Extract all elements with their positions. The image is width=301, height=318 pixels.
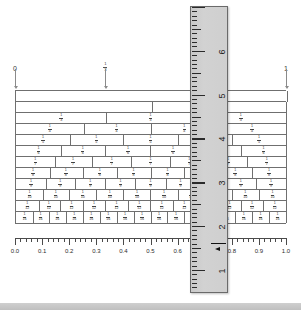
decimal-ruler: 0.00.10.20.30.40.50.60.70.80.91.0 [15, 238, 286, 264]
decimal-minor-tick [243, 238, 244, 242]
ruler-tick [192, 121, 197, 122]
fraction-cell-label: 18 [64, 169, 67, 177]
fraction-cell-label: 14 [115, 125, 118, 133]
ruler-tick [192, 174, 197, 175]
ruler-number: 2 [218, 225, 227, 230]
ruler-tick [192, 38, 197, 39]
fraction-cell-label: 16 [81, 147, 84, 155]
ruler-tick [192, 55, 197, 56]
fraction-cell-label: 15 [41, 136, 44, 144]
ruler-number: 5 [218, 93, 227, 98]
fraction-cell-label: 110 [162, 191, 166, 199]
decimal-minor-tick [53, 238, 54, 242]
decimal-minor-tick [48, 238, 49, 242]
fraction-cell-label: 18 [166, 169, 169, 177]
fraction-cell-label: 19 [239, 180, 242, 188]
decimal-minor-tick [275, 238, 276, 242]
decimal-minor-tick [113, 238, 114, 242]
decimal-minor-tick [107, 238, 108, 242]
ruler-tick [192, 7, 205, 8]
ruler-tick [192, 209, 197, 210]
fraction-cell[interactable]: 116 [167, 212, 185, 223]
fraction-cell[interactable]: 116 [252, 212, 270, 223]
decimal-major-tick [259, 238, 260, 245]
fraction-cell-label: 116 [157, 213, 161, 221]
fraction-cell-label: 13 [239, 114, 242, 122]
decimal-minor-tick [270, 238, 271, 242]
ruler-tick [192, 147, 197, 148]
decimal-minor-tick [183, 238, 184, 242]
fraction-cell[interactable]: 116 [117, 212, 135, 223]
fraction-cell[interactable]: 116 [66, 212, 84, 223]
ruler-tick [192, 60, 197, 61]
fraction-cell-label: 116 [174, 213, 178, 221]
fraction-cell[interactable]: 116 [151, 212, 169, 223]
fraction-cell[interactable]: 116 [49, 212, 67, 223]
ruler-tick [192, 20, 197, 21]
fraction-cell-label: 14 [250, 125, 253, 133]
decimal-minor-tick [31, 238, 32, 242]
decimal-minor-tick [140, 238, 141, 242]
ruler-tick [192, 138, 205, 139]
ruler-tick [192, 152, 197, 153]
decimal-ruler-label: 0.0 [5, 248, 25, 254]
ruler-number: 6 [218, 49, 227, 54]
ruler-tick [192, 270, 205, 271]
fraction-cell-label: 112 [137, 202, 141, 210]
ruler-tick [192, 200, 197, 201]
top-axis-pointer [286, 69, 287, 86]
decimal-minor-tick [129, 238, 130, 242]
decimal-minor-tick [118, 238, 119, 242]
ruler-number: 3 [218, 181, 227, 186]
decimal-minor-tick [167, 238, 168, 242]
ruler-tick [192, 11, 197, 12]
decimal-minor-tick [75, 238, 76, 242]
fraction-cell-label: 17 [71, 158, 74, 166]
fraction-cell-label: 110 [135, 191, 139, 199]
fraction-cell[interactable]: 116 [134, 212, 152, 223]
decimal-ruler-label: 0.1 [32, 248, 52, 254]
ruler-tick [192, 226, 205, 227]
fraction-cell[interactable]: 116 [83, 212, 101, 223]
fraction-cell-label: 19 [149, 180, 152, 188]
ruler-tick [192, 195, 197, 196]
decimal-minor-tick [26, 238, 27, 242]
fraction-cell-label: 110 [270, 191, 274, 199]
fraction-cell-label: 112 [160, 202, 164, 210]
decimal-minor-tick [102, 238, 103, 242]
fraction-cell-label: 116 [259, 213, 263, 221]
ruler-tick [192, 117, 201, 118]
ruler-tick [192, 252, 197, 253]
fraction-cell-label: 116 [22, 213, 26, 221]
decimal-minor-tick [20, 238, 21, 242]
decimal-minor-tick [172, 238, 173, 242]
decimal-minor-tick [145, 238, 146, 242]
fraction-cell-label: 110 [243, 191, 247, 199]
fraction-cell-label: 17 [34, 158, 37, 166]
ruler-tick [192, 156, 197, 157]
fraction-cell-label: 19 [58, 180, 61, 188]
fraction-cell[interactable]: 116 [32, 212, 50, 223]
bottom-gray-band [0, 303, 301, 310]
ruler-tick [192, 81, 197, 82]
fraction-cell-label: 16 [262, 147, 265, 155]
ruler-tick [192, 160, 201, 161]
ruler-tick [192, 112, 197, 113]
fraction-cell-label: 110 [108, 191, 112, 199]
decimal-major-tick [15, 238, 16, 245]
ruler-tick [192, 108, 197, 109]
decimal-minor-tick [64, 238, 65, 242]
vertical-ruler-overlay[interactable]: 654321 [190, 6, 228, 293]
ruler-tick [192, 222, 197, 223]
fraction-cell-label: 17 [110, 158, 113, 166]
fraction-cell[interactable]: 116 [100, 212, 118, 223]
fraction-wall-figure: 013231 131313141414141515151515161616161… [0, 0, 301, 318]
fraction-cell[interactable]: 116 [269, 212, 287, 223]
fraction-cell[interactable]: 116 [235, 212, 253, 223]
top-axis-arrow-icon [285, 86, 289, 89]
fraction-cell-label: 112 [69, 202, 73, 210]
decimal-major-tick [286, 238, 287, 245]
decimal-minor-tick [248, 238, 249, 242]
fraction-cell-label: 17 [265, 158, 268, 166]
decimal-major-tick [42, 238, 43, 245]
